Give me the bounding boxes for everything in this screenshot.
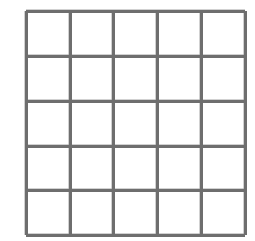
grid-cell-r4c4 <box>157 146 201 190</box>
grid-cell-r4c1 <box>26 146 70 190</box>
grid-cell-r4c2 <box>70 146 113 190</box>
grid-cell-r5c5 <box>201 190 245 235</box>
grid-cell-r3c1 <box>26 101 70 146</box>
grid-cell-r2c3 <box>113 56 157 101</box>
grid-cell-r5c1 <box>26 190 70 235</box>
image-canvas <box>0 0 255 241</box>
grid-cell-r4c3 <box>113 146 157 190</box>
grid-cell-r2c5 <box>201 56 245 101</box>
grid-figure <box>0 0 255 241</box>
grid-cell-r5c2 <box>70 190 113 235</box>
grid-cell-r3c5 <box>201 101 245 146</box>
grid-cell-r5c3 <box>113 190 157 235</box>
grid-cells <box>26 11 245 235</box>
grid-cell-r1c2 <box>70 11 113 56</box>
grid-cell-r3c4 <box>157 101 201 146</box>
grid-cell-r1c3 <box>113 11 157 56</box>
grid-cell-r1c4 <box>157 11 201 56</box>
grid-cell-r3c2 <box>70 101 113 146</box>
grid-cell-r1c1 <box>26 11 70 56</box>
grid-cell-r4c5 <box>201 146 245 190</box>
grid-cell-r3c3 <box>113 101 157 146</box>
grid-cell-r2c1 <box>26 56 70 101</box>
grid-cell-r5c4 <box>157 190 201 235</box>
grid-cell-r2c2 <box>70 56 113 101</box>
grid-cell-r2c4 <box>157 56 201 101</box>
grid-cell-r1c5 <box>201 11 245 56</box>
grid-svg <box>0 0 255 241</box>
